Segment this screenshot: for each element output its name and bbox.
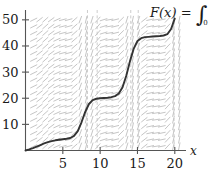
y-tick-label: 10 — [2, 117, 19, 132]
slope-field-figure: 1020304050 5101520 x F(x) = ∫0 — [0, 0, 210, 179]
y-tick-label: 20 — [2, 91, 19, 106]
x-axis-label: x — [190, 144, 197, 158]
x-tick-label: 15 — [129, 156, 146, 171]
y-axis-tick-labels: 1020304050 — [2, 12, 19, 132]
x-tick-label: 20 — [167, 156, 184, 171]
y-tick-label: 30 — [2, 65, 19, 80]
x-tick-label: 10 — [92, 156, 109, 171]
x-tick-label: 5 — [59, 156, 67, 171]
y-tick-label: 40 — [2, 38, 19, 53]
formula-annotation: F(x) = ∫0 — [150, 2, 208, 27]
y-tick-label: 50 — [2, 12, 19, 27]
x-axis-tick-labels: 5101520 — [59, 156, 183, 171]
integral-lower-limit: 0 — [203, 19, 207, 27]
formula-lhs: F(x) = — [150, 5, 196, 20]
